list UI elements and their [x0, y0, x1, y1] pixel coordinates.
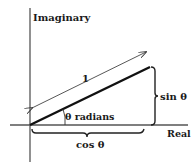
sin-label: sin θ — [160, 91, 187, 102]
hypotenuse-label: 1 — [82, 73, 89, 84]
cos-label: cos θ — [76, 139, 105, 150]
angle-label: θ radians — [65, 111, 114, 122]
imaginary-axis-label: Imaginary — [33, 12, 92, 23]
length-arrow — [32, 52, 146, 108]
sin-brace — [151, 67, 158, 125]
complex-plane-diagram: Imaginary Real 1 θ radians sin θ cos θ — [0, 0, 196, 168]
cos-brace — [32, 129, 144, 137]
real-axis-label: Real — [167, 128, 191, 139]
